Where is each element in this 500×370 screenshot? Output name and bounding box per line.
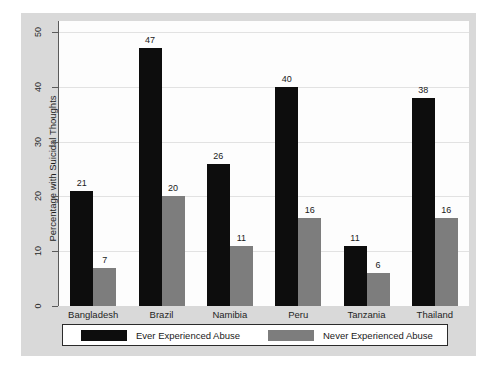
y-tick-mark xyxy=(52,32,58,33)
bar-value-label: 6 xyxy=(359,260,398,270)
y-tick-mark xyxy=(52,196,58,197)
bar-value-label: 47 xyxy=(131,35,170,45)
bar-value-label: 7 xyxy=(85,255,124,265)
bar-value-label: 20 xyxy=(154,183,193,193)
bar-bangladesh-never xyxy=(93,268,116,306)
bar-value-label: 11 xyxy=(222,233,261,243)
x-label-peru: Peru xyxy=(264,309,332,320)
bar-bangladesh-ever xyxy=(70,191,93,306)
chart-legend: Ever Experienced Abuse Never Experienced… xyxy=(62,324,448,346)
y-tick-mark xyxy=(52,306,58,307)
x-label-tanzania: Tanzania xyxy=(332,309,400,320)
bar-brazil-never xyxy=(162,196,185,306)
black-swatch-icon xyxy=(81,330,127,341)
x-label-brazil: Brazil xyxy=(127,309,195,320)
y-tick-label: 40 xyxy=(33,76,43,98)
gridline xyxy=(59,32,469,33)
bar-peru-ever xyxy=(275,87,298,306)
figure-panel: Percentage with Suicidal Thoughts 010203… xyxy=(21,13,476,356)
bar-value-label: 38 xyxy=(404,85,443,95)
bar-peru-never xyxy=(298,218,321,306)
y-axis-title: Percentage with Suicidal Thoughts xyxy=(47,74,58,264)
x-label-bangladesh: Bangladesh xyxy=(59,309,127,320)
bar-value-label: 16 xyxy=(427,205,466,215)
x-label-namibia: Namibia xyxy=(196,309,264,320)
y-tick-mark xyxy=(52,87,58,88)
gray-swatch-icon xyxy=(268,330,314,341)
bar-tanzania-never xyxy=(367,273,390,306)
y-tick-label: 0 xyxy=(33,295,43,317)
bar-thailand-ever xyxy=(412,98,435,306)
y-tick-mark xyxy=(52,251,58,252)
y-tick-label: 50 xyxy=(33,21,43,43)
gridline xyxy=(59,196,469,197)
y-tick-label: 20 xyxy=(33,185,43,207)
bar-value-label: 16 xyxy=(290,205,329,215)
legend-label-never: Never Experienced Abuse xyxy=(323,330,433,341)
bar-thailand-never xyxy=(435,218,458,306)
bar-tanzania-ever xyxy=(344,246,367,306)
bar-brazil-ever xyxy=(139,48,162,306)
gridline xyxy=(59,142,469,143)
bar-value-label: 11 xyxy=(336,233,375,243)
bar-value-label: 40 xyxy=(267,74,306,84)
bar-value-label: 21 xyxy=(62,178,101,188)
x-label-thailand: Thailand xyxy=(401,309,469,320)
gridline xyxy=(59,251,469,252)
bar-namibia-never xyxy=(230,246,253,306)
legend-entry-ever-experienced-abuse: Ever Experienced Abuse xyxy=(81,325,240,345)
legend-entry-never-experienced-abuse: Never Experienced Abuse xyxy=(268,325,433,345)
legend-label-ever: Ever Experienced Abuse xyxy=(136,330,240,341)
y-tick-mark xyxy=(52,142,58,143)
y-tick-label: 10 xyxy=(33,240,43,262)
y-tick-label: 30 xyxy=(33,131,43,153)
bar-value-label: 26 xyxy=(199,151,238,161)
chart-page: Percentage with Suicidal Thoughts 010203… xyxy=(0,0,500,370)
